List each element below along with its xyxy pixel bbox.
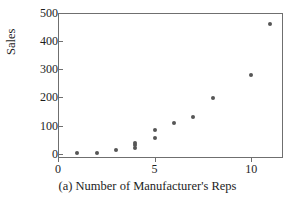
plot-frame bbox=[58, 13, 283, 158]
x-tick-label: 10 bbox=[231, 163, 271, 175]
y-tick-mark bbox=[58, 69, 63, 70]
y-tick-mark bbox=[58, 13, 63, 14]
y-axis-label: Sales bbox=[4, 29, 19, 55]
y-tick-label: 200 bbox=[40, 91, 58, 103]
y-tick-mark bbox=[58, 154, 63, 155]
y-tick-label: 300 bbox=[40, 63, 58, 75]
y-tick-label: 400 bbox=[40, 35, 58, 47]
scatter-plot-figure: 0100200300400500 0510 Sales (a) Number o… bbox=[0, 0, 295, 198]
y-tick-mark bbox=[58, 126, 63, 127]
y-tick-mark bbox=[58, 41, 63, 42]
y-tick-label: 500 bbox=[40, 7, 58, 19]
y-tick-mark bbox=[58, 97, 63, 98]
figure-caption: (a) Number of Manufacturer's Reps bbox=[0, 179, 295, 194]
x-tick-label: 0 bbox=[38, 163, 78, 175]
x-tick-label: 5 bbox=[135, 163, 175, 175]
y-tick-label: 100 bbox=[40, 120, 58, 132]
